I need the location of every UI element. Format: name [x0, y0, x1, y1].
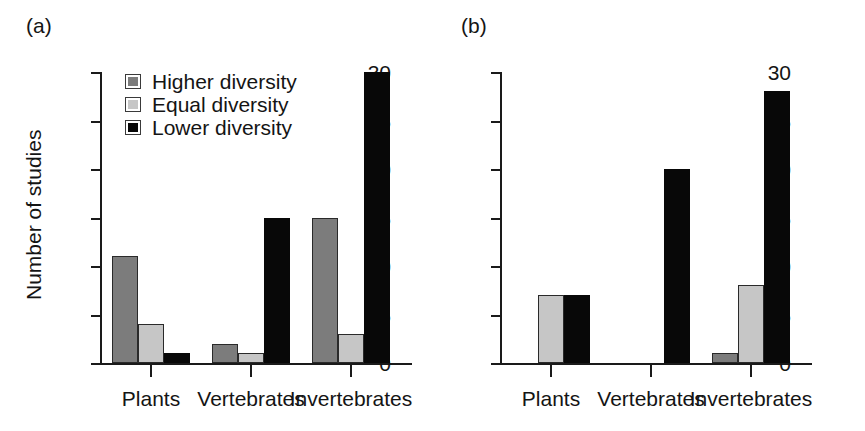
bar-plants-equal-diversity: [138, 324, 164, 363]
x-tick-label-plants: Plants: [522, 388, 580, 409]
y-tick-20: [91, 169, 100, 171]
y-tick-25: [491, 121, 500, 123]
y-tick-label-30: 30: [731, 62, 791, 83]
legend-row-equal-diversity: Equal diversity: [126, 93, 297, 116]
y-tick-25: [91, 121, 100, 123]
y-tick-10: [491, 266, 500, 268]
y-tick-30: [491, 72, 500, 74]
panel-b-label: (b): [461, 14, 487, 38]
bar-vertebrates-equal-diversity: [238, 353, 264, 363]
panel-a: (a) Number of studies 051015202530 Plant…: [0, 0, 432, 431]
y-tick-20: [491, 169, 500, 171]
y-tick-15: [491, 218, 500, 220]
bar-vertebrates-lower-diversity: [664, 169, 690, 363]
bar-plants-lower-diversity: [164, 353, 190, 363]
bar-plants-equal-diversity: [538, 295, 564, 363]
legend-label: Lower diversity: [152, 117, 292, 138]
y-tick-5: [491, 315, 500, 317]
legend-label: Higher diversity: [152, 71, 297, 92]
y-tick-15: [91, 218, 100, 220]
legend-label: Equal diversity: [152, 94, 289, 115]
x-tick-label-vertebrates: Vertebrates: [597, 388, 704, 409]
x-tick-label-invertebrates: Invertebrates: [290, 388, 413, 409]
bar-invertebrates-lower-diversity: [364, 72, 390, 363]
lower-diversity-swatch: [126, 121, 140, 134]
legend-row-higher-diversity: Higher diversity: [126, 70, 297, 93]
panel-a-label: (a): [26, 14, 52, 38]
y-axis-line: [500, 72, 502, 364]
x-tick-vertebrates: [650, 365, 652, 377]
y-tick-0: [491, 363, 500, 365]
bar-invertebrates-higher-diversity: [712, 353, 738, 363]
x-tick-plants: [550, 365, 552, 377]
y-tick-10: [91, 266, 100, 268]
x-tick-label-invertebrates: Invertebrates: [690, 388, 813, 409]
panel-b: (b) 051015202530 PlantsVertebratesInvert…: [433, 0, 865, 431]
bar-plants-lower-diversity: [564, 295, 590, 363]
y-axis-title: Number of studies: [22, 130, 46, 300]
bar-invertebrates-higher-diversity: [312, 218, 338, 364]
x-tick-invertebrates: [350, 365, 352, 377]
bar-invertebrates-lower-diversity: [764, 91, 790, 363]
equal-diversity-swatch: [126, 98, 140, 111]
plot-area-b: 051015202530 PlantsVertebratesInvertebra…: [500, 72, 805, 363]
higher-diversity-swatch: [126, 75, 140, 88]
x-tick-plants: [150, 365, 152, 377]
bar-vertebrates-lower-diversity: [264, 218, 290, 364]
figure-bar-charts: (a) Number of studies 051015202530 Plant…: [0, 0, 865, 431]
y-axis-line: [100, 72, 102, 364]
x-tick-label-plants: Plants: [122, 388, 180, 409]
x-tick-label-vertebrates: Vertebrates: [197, 388, 304, 409]
bar-vertebrates-higher-diversity: [212, 344, 238, 363]
x-tick-vertebrates: [250, 365, 252, 377]
bar-invertebrates-equal-diversity: [338, 334, 364, 363]
bar-invertebrates-equal-diversity: [738, 285, 764, 363]
y-tick-30: [91, 72, 100, 74]
y-tick-5: [91, 315, 100, 317]
bar-plants-higher-diversity: [112, 256, 138, 363]
y-tick-0: [91, 363, 100, 365]
legend-row-lower-diversity: Lower diversity: [126, 116, 297, 139]
x-tick-invertebrates: [750, 365, 752, 377]
legend-a: Higher diversityEqual diversityLower div…: [126, 70, 297, 139]
